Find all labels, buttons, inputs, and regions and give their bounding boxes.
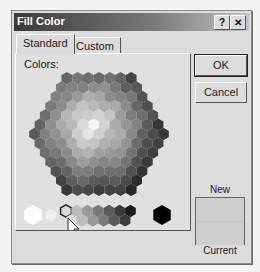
standard-panel: Colors: <box>15 53 191 231</box>
cancel-button[interactable]: Cancel <box>195 82 247 103</box>
help-icon: ? <box>219 17 225 28</box>
new-color-swatch <box>196 198 244 222</box>
grayscale-white-cell[interactable] <box>24 205 41 225</box>
new-label: New <box>195 184 245 195</box>
close-icon: ✕ <box>234 17 242 28</box>
close-button[interactable]: ✕ <box>230 15 246 30</box>
ok-button[interactable]: OK <box>195 55 247 76</box>
current-label: Current <box>195 245 245 256</box>
grayscale-black-cell[interactable] <box>153 205 170 225</box>
grayscale-cell[interactable] <box>46 209 56 221</box>
tab-standard[interactable]: Standard <box>16 34 75 54</box>
current-color-swatch <box>196 222 244 245</box>
help-button[interactable]: ? <box>214 15 230 30</box>
fill-color-dialog: Fill Color ? ✕ Standard Custom Colors: O… <box>11 10 252 264</box>
dialog-title: Fill Color <box>17 15 65 27</box>
title-bar[interactable]: Fill Color ? ✕ <box>14 13 249 31</box>
color-hexagon-palette[interactable] <box>16 54 190 230</box>
color-preview <box>195 197 245 245</box>
